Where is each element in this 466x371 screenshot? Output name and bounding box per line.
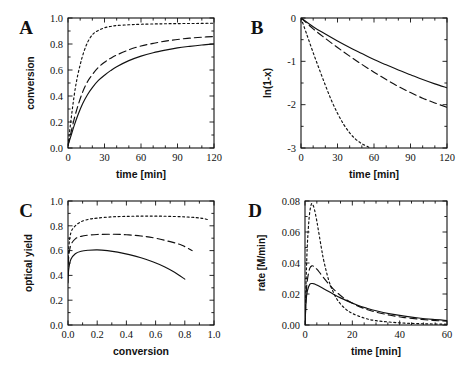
plot-c: C0.00.20.40.60.81.00.00.20.40.60.81.0con… xyxy=(0,185,233,371)
x-axis-title: conversion xyxy=(113,345,169,357)
y-tick-label: 0.00 xyxy=(282,320,300,331)
y-axis-title: optical yield xyxy=(23,234,34,292)
y-tick-label: 0.2 xyxy=(50,295,63,306)
x-tick-label: 40 xyxy=(394,329,405,340)
panel-letter-b: B xyxy=(251,17,264,38)
x-tick-label: 120 xyxy=(206,152,222,163)
y-tick-label: 1.0 xyxy=(50,13,63,24)
x-tick-label: 60 xyxy=(136,152,147,163)
plot-b: B0306090120-3-2-10time [min]ln(1-x) xyxy=(233,0,466,186)
panel-b: B0306090120-3-2-10time [min]ln(1-x) xyxy=(233,0,466,186)
series-dashed xyxy=(301,18,447,107)
x-tick-label: 90 xyxy=(172,152,183,163)
x-tick-label: 0.4 xyxy=(120,329,134,340)
x-axis-title: time [min] xyxy=(116,168,166,180)
y-tick-label: 0.6 xyxy=(50,65,63,76)
y-tick-label: 0.02 xyxy=(282,289,300,300)
series-solid xyxy=(301,18,447,88)
x-tick-label: 0.6 xyxy=(149,329,162,340)
y-tick-label: 0.4 xyxy=(50,91,64,102)
y-tick-label: 0.08 xyxy=(282,196,300,207)
series-dotted xyxy=(305,204,447,325)
y-axis-title: rate [M/min] xyxy=(256,235,267,292)
x-tick-label: 1.0 xyxy=(207,329,220,340)
y-tick-label: 0 xyxy=(291,13,296,24)
y-tick-label: -2 xyxy=(287,99,296,110)
panel-letter-c: C xyxy=(19,200,33,221)
x-tick-label: 60 xyxy=(369,152,380,163)
y-tick-label: 0.0 xyxy=(50,143,63,154)
y-tick-label: 0.4 xyxy=(50,270,64,281)
x-tick-label: 0 xyxy=(302,329,307,340)
y-tick-label: 0.8 xyxy=(50,221,63,232)
axes-frame xyxy=(68,201,214,325)
series-dotted xyxy=(301,18,370,148)
panel-a: A03060901200.00.20.40.60.81.0time [min]c… xyxy=(0,0,233,186)
y-axis-title: ln(1-x) xyxy=(262,68,273,98)
y-tick-label: 1.0 xyxy=(50,196,63,207)
series-dotted xyxy=(68,216,210,272)
plot-d: D02040600.000.020.040.060.08time [min]ra… xyxy=(233,185,466,371)
x-tick-label: 0.2 xyxy=(91,329,104,340)
axes-frame xyxy=(301,18,447,148)
figure-four-panel-kinetics: A03060901200.00.20.40.60.81.0time [min]c… xyxy=(0,0,466,371)
y-tick-label: 0.06 xyxy=(282,227,300,238)
series-solid xyxy=(305,283,447,325)
plot-a: A03060901200.00.20.40.60.81.0time [min]c… xyxy=(0,0,233,186)
x-tick-label: 30 xyxy=(99,152,110,163)
y-tick-label: 0.04 xyxy=(282,258,301,269)
series-dashed xyxy=(305,266,447,325)
x-axis-title: time [min] xyxy=(351,345,401,357)
y-tick-label: 0.6 xyxy=(50,245,63,256)
series-solid xyxy=(68,250,185,283)
series-solid xyxy=(68,44,214,145)
y-tick-label: 0.2 xyxy=(50,117,63,128)
x-tick-label: 60 xyxy=(442,329,453,340)
x-tick-label: 0.8 xyxy=(178,329,191,340)
panel-letter-a: A xyxy=(19,17,33,38)
panel-d: D02040600.000.020.040.060.08time [min]ra… xyxy=(233,185,466,371)
x-axis-title: time [min] xyxy=(349,168,399,180)
y-tick-label: -1 xyxy=(287,56,296,67)
panel-c: C0.00.20.40.60.81.00.00.20.40.60.81.0con… xyxy=(0,185,233,371)
x-tick-label: 30 xyxy=(332,152,343,163)
x-tick-label: 90 xyxy=(405,152,416,163)
axes-frame xyxy=(305,201,447,325)
y-tick-label: 0.8 xyxy=(50,39,63,50)
x-tick-label: 0 xyxy=(298,152,303,163)
x-tick-label: 20 xyxy=(347,329,358,340)
x-tick-label: 120 xyxy=(439,152,455,163)
x-tick-label: 0 xyxy=(65,152,70,163)
x-tick-label: 0.0 xyxy=(61,329,74,340)
panel-letter-d: D xyxy=(248,200,262,221)
series-dotted xyxy=(68,23,214,145)
y-tick-label: 0.0 xyxy=(50,320,63,331)
y-tick-label: -3 xyxy=(287,143,296,154)
y-axis-title: conversion xyxy=(25,56,36,109)
